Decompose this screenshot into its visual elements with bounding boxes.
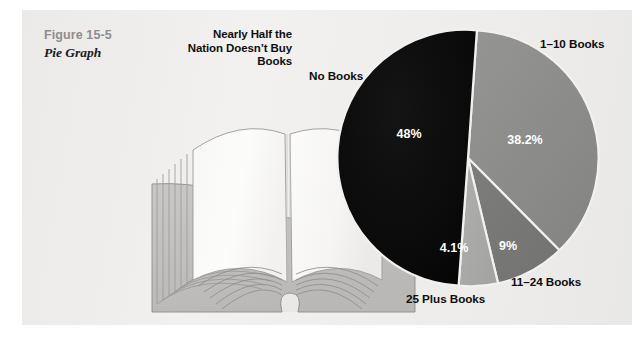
pie-chart: 48% 38.2% 9% 4.1% [330, 20, 615, 305]
pie-label-1-10-books: 1–10 Books [540, 37, 604, 50]
pie-label-no-books: No Books [309, 69, 363, 82]
pie-label-11-24-books: 11–24 Books [511, 275, 581, 288]
pie-value-25-plus-books: 4.1% [440, 241, 469, 255]
figure-number: Figure 15-5 [44, 27, 194, 43]
figure-caption: Figure 15-5 Pie Graph [44, 27, 194, 61]
pie-value-no-books: 48% [396, 127, 421, 141]
pie-value-11-24-books: 9% [499, 239, 517, 253]
figure-root: Figure 15-5 Pie Graph Nearly Half the Na… [0, 0, 643, 349]
chart-headline: Nearly Half the Nation Doesn’t Buy Books [186, 28, 292, 69]
pie-value-1-10-books: 38.2% [507, 133, 542, 147]
book-page-left [193, 129, 287, 282]
figure-title: Pie Graph [44, 44, 194, 61]
book-center-notch [281, 293, 300, 312]
pie-label-25-plus-books: 25 Plus Books [406, 292, 485, 305]
